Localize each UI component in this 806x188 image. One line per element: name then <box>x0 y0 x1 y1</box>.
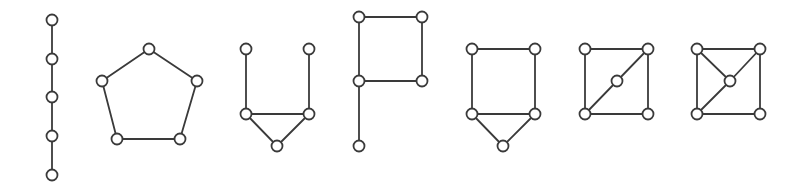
graph-edge <box>697 81 730 114</box>
graph-node <box>692 44 703 55</box>
graph-node <box>467 44 478 55</box>
graph-node <box>725 76 736 87</box>
graph-node <box>417 76 428 87</box>
graph-edge <box>277 114 309 146</box>
graph-node <box>304 109 315 120</box>
graph-node <box>354 12 365 23</box>
graph-node <box>692 109 703 120</box>
graph-node <box>241 44 252 55</box>
graph-node <box>755 44 766 55</box>
graph-node <box>47 54 58 65</box>
graph-node <box>241 109 252 120</box>
graph-node <box>354 76 365 87</box>
graph-node <box>304 44 315 55</box>
graph-node <box>47 92 58 103</box>
graph-node <box>112 134 123 145</box>
graph-edge <box>102 81 117 139</box>
graph-edge <box>730 49 760 81</box>
graph-node <box>643 44 654 55</box>
graph-node <box>144 44 155 55</box>
house-graph <box>467 44 541 152</box>
graph-edge <box>180 81 197 139</box>
graph-edge <box>246 114 277 146</box>
graph-node <box>530 44 541 55</box>
graph-node <box>612 76 623 87</box>
graph-edge <box>149 49 197 81</box>
graph-node <box>417 12 428 23</box>
graph-node <box>354 141 365 152</box>
graph-node <box>47 15 58 26</box>
graph-edge <box>102 49 149 81</box>
graph-node <box>192 76 203 87</box>
graph-node <box>530 109 541 120</box>
cycle-graph <box>97 44 203 145</box>
graph-edge <box>617 49 648 81</box>
graph-edge <box>503 114 535 146</box>
bull-graph <box>241 44 315 152</box>
graph-node <box>272 141 283 152</box>
graph-diagram <box>0 0 806 188</box>
graph-node <box>755 109 766 120</box>
gem-variant-graph <box>692 44 766 120</box>
graph-edge <box>585 81 617 114</box>
graph-node <box>47 131 58 142</box>
graph-edge <box>472 114 503 146</box>
graph-node <box>498 141 509 152</box>
graph-node <box>97 76 108 87</box>
graph-node <box>643 109 654 120</box>
graph-edge <box>697 49 730 81</box>
house-x-partial-graph <box>580 44 654 120</box>
graph-node <box>467 109 478 120</box>
graph-node <box>580 109 591 120</box>
graph-node <box>580 44 591 55</box>
path-graph <box>47 15 58 181</box>
graph-node <box>47 170 58 181</box>
p-graph <box>354 12 428 152</box>
graph-node <box>175 134 186 145</box>
